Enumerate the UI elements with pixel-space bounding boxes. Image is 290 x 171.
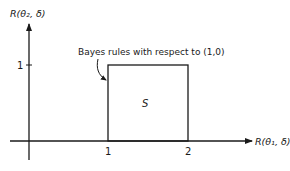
region-label-s: S <box>142 98 149 109</box>
x-tick-label-1: 1 <box>105 146 111 157</box>
annotation-arrow <box>97 59 106 80</box>
x-axis-label: R(θ₁, δ) <box>255 136 290 147</box>
x-tick-label-2: 2 <box>185 146 191 157</box>
risk-set-diagram: 1 R(θ₂, δ) R(θ₁, δ) 1 2 S Bayes rules wi… <box>0 0 290 171</box>
bayes-annotation: Bayes rules with respect to (1,0) <box>78 47 225 57</box>
y-axis-label: R(θ₂, δ) <box>10 8 46 19</box>
y-tick-label-1: 1 <box>17 60 23 71</box>
